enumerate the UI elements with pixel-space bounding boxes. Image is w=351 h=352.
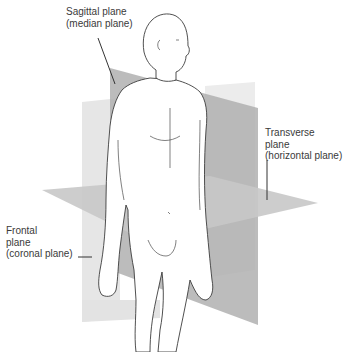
sagittal-leader — [98, 38, 115, 84]
anatomical-planes-diagram: Sagittal plane (median plane) Transverse… — [0, 0, 351, 352]
frontal-plane-label: Frontal plane (coronal plane) — [6, 225, 73, 260]
transverse-plane-label: Transverse plane (horizontal plane) — [265, 127, 342, 162]
sagittal-plane-label: Sagittal plane (median plane) — [66, 6, 133, 29]
